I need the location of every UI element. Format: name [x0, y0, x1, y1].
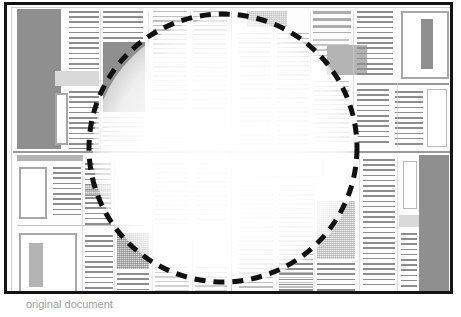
- bl-lower-bar: [29, 243, 43, 287]
- br-big-photo: [419, 155, 449, 291]
- br-gutter-4: [397, 157, 398, 291]
- bl-column-d: [117, 273, 149, 291]
- column-1-sidebar-box: [55, 93, 68, 145]
- document-page-frame: [4, 2, 453, 294]
- inner-border-rule-left: [11, 7, 12, 291]
- bl-column-f: [195, 163, 227, 225]
- column-2-text: [103, 11, 143, 39]
- bl-mid-box: [157, 191, 187, 209]
- vertical-gutter-divider: [231, 11, 232, 291]
- bl-column-a: [53, 167, 81, 219]
- br-column-photo-caption: [317, 263, 355, 291]
- column-1-text: [69, 11, 99, 69]
- bl-gutter-4: [192, 157, 193, 291]
- tr-column-d: [357, 11, 393, 79]
- column-2-photo: [103, 42, 145, 112]
- tr-lower-rule: [357, 83, 449, 85]
- bl-column-b2: [85, 197, 111, 225]
- bl-banner: [17, 155, 83, 161]
- tr-ad-bar: [421, 19, 433, 69]
- column-3-text: [153, 11, 187, 109]
- bl-gutter-3: [152, 157, 153, 291]
- top-wide-box: [155, 115, 227, 133]
- tr-halftone-banner: [247, 11, 287, 27]
- bl-column-h: [195, 267, 227, 291]
- br-column-a: [239, 185, 273, 289]
- tr-lower-box: [427, 89, 447, 147]
- column-1-caption-box: [55, 71, 99, 86]
- column-4-text: [193, 11, 227, 109]
- inner-border-rule-top: [11, 7, 450, 8]
- br-column-b-low: [279, 263, 313, 291]
- tr-gutter-2: [310, 11, 311, 147]
- page-caption: original document: [26, 297, 226, 315]
- bl-inline-halftone: [85, 185, 111, 195]
- br-side-text: [401, 233, 417, 289]
- bl-column-c: [85, 235, 113, 291]
- br-column-c: [363, 159, 395, 289]
- br-box: [241, 159, 323, 177]
- bl-photo-halftone: [117, 233, 149, 269]
- column-4-text-lower: [193, 137, 227, 149]
- column-3-text-lower: [153, 137, 187, 149]
- br-side-frame: [403, 161, 417, 209]
- tr-gutter-3: [353, 11, 354, 147]
- tr-lower-text: [357, 89, 389, 145]
- br-gutter-3: [359, 157, 360, 291]
- tr-gutter-1: [273, 11, 274, 147]
- document-page-canvas: [7, 5, 450, 291]
- tl-gutter-2: [148, 11, 149, 149]
- bl-gutter-1: [82, 157, 83, 291]
- bl-section-rule: [17, 225, 145, 226]
- tr-gutter-4: [397, 83, 398, 147]
- tr-lower-text2: [395, 91, 423, 145]
- br-photo: [317, 201, 355, 259]
- bl-gutter-2: [114, 157, 115, 291]
- br-gutter-1: [276, 157, 277, 291]
- column-2-text-lower: [103, 117, 143, 149]
- tr-column-b: [277, 33, 309, 145]
- column-1-text-lower: [69, 91, 99, 149]
- bl-lower-frame: [19, 233, 77, 291]
- bl-column-g: [155, 267, 189, 291]
- br-gutter-2: [314, 157, 315, 291]
- tr-column-c: [313, 81, 349, 145]
- bl-photo-frame: [19, 167, 47, 219]
- tl-gutter-3: [190, 11, 191, 149]
- tr-headline: [313, 11, 351, 33]
- page-root: original document: [0, 0, 461, 317]
- tr-column-a: [239, 33, 271, 145]
- tl-gutter-1: [100, 11, 101, 149]
